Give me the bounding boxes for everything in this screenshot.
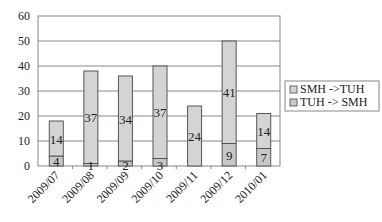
- data-label-smh-tuh: 37: [84, 110, 98, 125]
- y-axis-ticks: 0102030405060: [18, 9, 30, 173]
- legend-label-smh-tuh: SMH ->TUH: [300, 82, 365, 96]
- bars: 14437134237324419147: [49, 41, 270, 173]
- x-tick-label: 2009/07: [25, 168, 63, 206]
- data-label-smh-tuh: 41: [223, 85, 236, 100]
- legend-swatch-smh-tuh: [290, 86, 297, 93]
- y-tick-label: 60: [18, 9, 30, 23]
- x-tick-label: 2009/10: [128, 168, 166, 206]
- y-tick-label: 30: [18, 84, 30, 98]
- data-label-smh-tuh: 14: [257, 124, 271, 139]
- stacked-bar-chart: 0102030405060 14437134237324419147 2009/…: [0, 0, 382, 222]
- x-tick-label: 2010/01: [232, 168, 270, 206]
- data-label-smh-tuh: 24: [188, 129, 202, 144]
- legend-label-tuh-smh: TUH -> SMH: [300, 95, 368, 109]
- x-tick-label: 2009/08: [59, 168, 97, 206]
- data-label-smh-tuh: 37: [154, 105, 168, 120]
- legend-swatch-tuh-smh: [290, 99, 297, 106]
- x-tick-label: 2009/09: [94, 168, 132, 206]
- data-label-tuh-smh: 7: [260, 150, 267, 165]
- y-tick-label: 0: [24, 159, 30, 173]
- y-tick-label: 40: [18, 59, 30, 73]
- y-tick-label: 50: [18, 34, 30, 48]
- legend: SMH ->TUH TUH -> SMH: [285, 81, 379, 111]
- data-label-tuh-smh: 9: [226, 148, 233, 163]
- y-tick-label: 10: [18, 134, 30, 148]
- y-tick-label: 20: [18, 109, 30, 123]
- data-label-smh-tuh: 34: [119, 112, 133, 127]
- data-label-tuh-smh: 4: [53, 154, 60, 169]
- x-tick-label: 2009/11: [163, 168, 200, 205]
- x-tick-label: 2009/12: [198, 168, 236, 206]
- x-axis-ticks: 2009/072009/082009/092009/102009/112009/…: [25, 166, 270, 206]
- data-label-smh-tuh: 14: [50, 132, 64, 147]
